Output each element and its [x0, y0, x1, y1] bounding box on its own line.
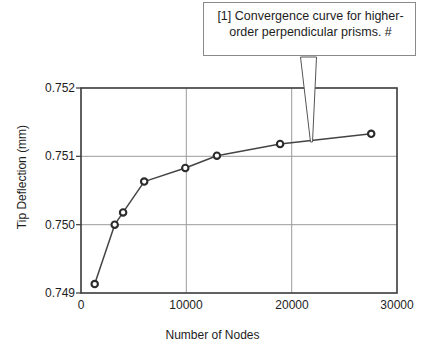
data-point	[214, 153, 220, 159]
y-axis-title: Tip Deflection (mm)	[15, 102, 29, 252]
x-tick-label-10000: 10000	[156, 298, 216, 312]
y-axis-tick-labels: 0.752 0.751 0.750 0.749	[25, 0, 75, 349]
convergence-chart-figure: [1] Convergence curve for higher-order p…	[0, 0, 425, 349]
plot-background	[81, 88, 397, 293]
data-point	[141, 178, 147, 184]
data-point	[277, 141, 283, 147]
data-point	[92, 281, 98, 287]
x-tick-label-20000: 20000	[262, 298, 322, 312]
data-point	[120, 209, 126, 215]
x-tick-label-30000: 30000	[367, 298, 425, 312]
data-point	[112, 222, 118, 228]
data-point	[182, 165, 188, 171]
y-tick-label-0752: 0.752	[27, 81, 75, 95]
callout-box[interactable]: [1] Convergence curve for higher-order p…	[203, 2, 416, 56]
y-tick-label-0750: 0.750	[27, 218, 75, 232]
x-tick-label-0: 0	[51, 298, 111, 312]
y-tick-label-0751: 0.751	[27, 149, 75, 163]
x-axis-title: Number of Nodes	[0, 328, 425, 342]
data-point	[368, 131, 374, 137]
callout-text: [1] Convergence curve for higher-order p…	[204, 8, 417, 40]
